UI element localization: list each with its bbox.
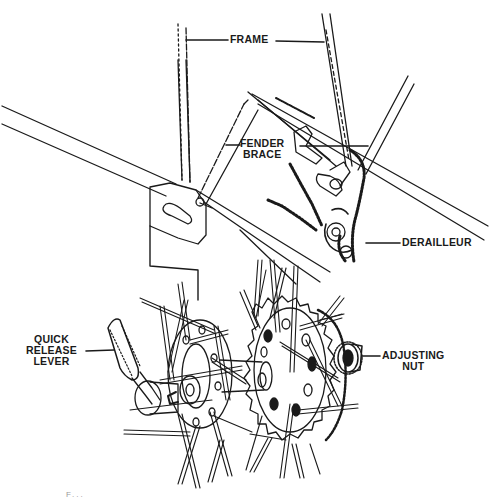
- quick-release-lever-label: QUICK RELEASE LEVER: [26, 334, 77, 367]
- quick-release-label-line3: LEVER: [26, 356, 77, 367]
- derailleur-body: [325, 209, 352, 258]
- adjusting-nut: [334, 342, 362, 374]
- adjusting-nut-label: ADJUSTING NUT: [382, 350, 444, 372]
- chain-stay: [2, 106, 330, 282]
- frame-leader-right: [276, 41, 324, 42]
- left-dropout: [150, 183, 212, 244]
- frame-right-tube: [322, 14, 352, 166]
- bicycle-rear-hub-illustration: [0, 0, 499, 497]
- figure-caption-fragment: F...: [66, 490, 85, 497]
- frame-label: FRAME: [230, 34, 268, 45]
- left-hub-flange: [168, 320, 232, 428]
- adjusting-nut-label-line2: NUT: [382, 361, 444, 372]
- hub-leader: [150, 226, 198, 300]
- fender-brace-label: FENDER BRACE: [240, 138, 284, 160]
- chain: [268, 150, 364, 262]
- fender-brace-label-line2: BRACE: [240, 149, 284, 160]
- frame-left-stay: [178, 24, 190, 182]
- quick-release-leader: [86, 350, 114, 351]
- spokes: [124, 260, 358, 488]
- axle-guide: [240, 230, 296, 284]
- derailleur-label: DERAILLEUR: [402, 237, 472, 248]
